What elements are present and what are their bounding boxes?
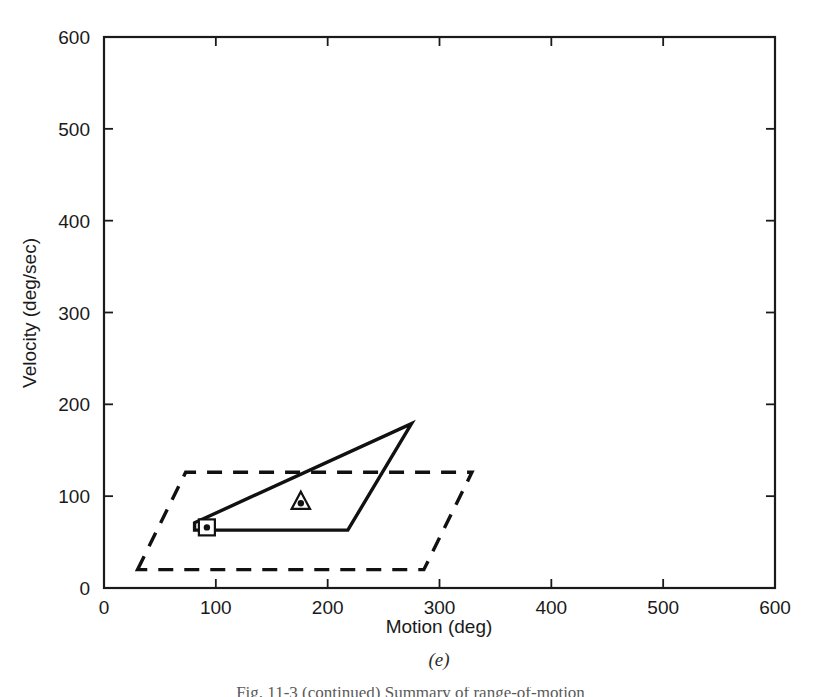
figure-subcaption: (e) [428, 649, 449, 671]
series-dashed-envelope [138, 472, 472, 569]
x-tick-label: 200 [312, 597, 344, 618]
x-tick-label: 400 [535, 597, 567, 618]
y-tick-label: 200 [58, 394, 90, 415]
triangle-dot-marker [292, 492, 310, 509]
y-tick-label: 300 [58, 303, 90, 324]
y-axis-tick-labels: 0100200300400500600 [58, 27, 90, 599]
x-axis-tick-labels: 0100200300400500600 [99, 597, 791, 618]
y-tick-label: 400 [58, 211, 90, 232]
figure-container: 0100200300400500600 0100200300400500600 … [0, 0, 821, 697]
data-series-group [138, 424, 472, 570]
series-solid-envelope [195, 424, 412, 531]
scatter-plot-figure: 0100200300400500600 0100200300400500600 … [0, 0, 821, 697]
y-axis-title: Velocity (deg/sec) [19, 238, 40, 388]
y-tick-label: 100 [58, 486, 90, 507]
x-tick-label: 500 [647, 597, 679, 618]
x-axis-title: Motion (deg) [386, 616, 493, 637]
marker-center-dot [298, 500, 304, 506]
x-tick-label: 300 [424, 597, 456, 618]
y-tick-label: 600 [58, 27, 90, 48]
plot-border [104, 37, 775, 588]
square-dot-marker [199, 519, 215, 535]
y-tick-label: 500 [58, 119, 90, 140]
marker-center-dot [204, 524, 210, 530]
plot-frame [104, 37, 775, 588]
tick-marks-group [104, 37, 775, 588]
y-tick-label: 0 [79, 578, 90, 599]
x-tick-label: 100 [200, 597, 232, 618]
x-tick-label: 600 [759, 597, 791, 618]
x-tick-label: 0 [99, 597, 110, 618]
